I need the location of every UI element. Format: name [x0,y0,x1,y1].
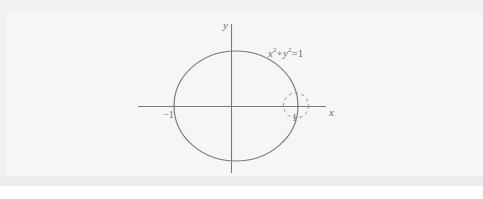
y-axis-label: y [223,19,228,31]
x-tick-label-negative-one: −1 [163,109,174,120]
figure-page: x2+y2=1 x y −1 1 [0,0,483,199]
coordinate-plot [0,0,483,199]
equation-equals-one: =1 [292,47,304,59]
curve-equation-label: x2+y2=1 [268,47,303,59]
x-tick-label-one: 1 [292,112,297,123]
x-axis-label: x [329,106,334,118]
